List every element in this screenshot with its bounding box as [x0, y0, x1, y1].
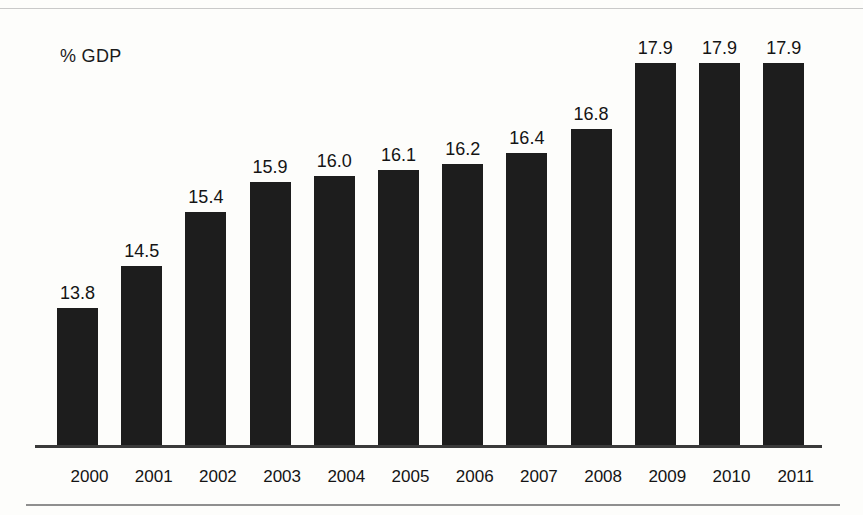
bar[interactable]	[571, 129, 612, 445]
bar-group: 17.9	[763, 0, 804, 445]
bar[interactable]	[442, 164, 483, 445]
bar[interactable]	[506, 153, 547, 445]
bar[interactable]	[699, 63, 740, 445]
x-axis-tick-label: 2010	[699, 467, 764, 487]
bottom-divider-rule	[26, 504, 840, 506]
bar-group: 16.1	[378, 0, 419, 445]
bar-value-label: 15.4	[173, 187, 238, 208]
bar[interactable]	[250, 182, 291, 445]
x-axis-tick-label: 2005	[378, 467, 443, 487]
bar-group: 15.9	[250, 0, 291, 445]
bar-value-label: 17.9	[687, 38, 752, 59]
bar-group: 16.0	[314, 0, 355, 445]
bar-group: 16.8	[571, 0, 612, 445]
x-axis-tick-label: 2008	[571, 467, 636, 487]
bar-group: 17.9	[635, 0, 676, 445]
x-axis-tick-label: 2000	[57, 467, 122, 487]
x-axis-tick-label: 2003	[250, 467, 315, 487]
bar[interactable]	[314, 176, 355, 445]
bar-value-label: 13.8	[45, 283, 110, 304]
x-axis-tick-label: 2004	[314, 467, 379, 487]
bar[interactable]	[121, 266, 162, 445]
x-axis-tick-label: 2009	[635, 467, 700, 487]
bar[interactable]	[185, 212, 226, 445]
bar-group: 16.4	[506, 0, 547, 445]
bar-group: 16.2	[442, 0, 483, 445]
x-axis-tick-label: 2001	[121, 467, 186, 487]
bar[interactable]	[378, 170, 419, 445]
bar-value-label: 16.0	[302, 151, 367, 172]
bar-value-label: 14.5	[109, 241, 174, 262]
bar[interactable]	[763, 63, 804, 445]
bar-group: 13.8	[57, 0, 98, 445]
bar-chart-plot-area: % GDP 13.814.515.415.916.016.116.216.416…	[0, 0, 863, 515]
x-axis-tick-label: 2007	[506, 467, 571, 487]
x-axis-tick-label: 2006	[442, 467, 507, 487]
x-axis-baseline	[35, 445, 822, 448]
bar-value-label: 16.2	[430, 139, 495, 160]
bar-value-label: 15.9	[238, 157, 303, 178]
bar-value-label: 17.9	[751, 38, 816, 59]
bar-value-label: 16.1	[366, 145, 431, 166]
bar[interactable]	[57, 308, 98, 445]
x-axis-tick-label: 2002	[185, 467, 250, 487]
bar-group: 14.5	[121, 0, 162, 445]
bar[interactable]	[635, 63, 676, 445]
chart-page: % GDP 13.814.515.415.916.016.116.216.416…	[0, 0, 863, 515]
bar-value-label: 16.8	[559, 104, 624, 125]
bar-value-label: 16.4	[494, 128, 559, 149]
bar-group: 15.4	[185, 0, 226, 445]
bar-group: 17.9	[699, 0, 740, 445]
x-axis-tick-label: 2011	[763, 467, 828, 487]
bar-value-label: 17.9	[623, 38, 688, 59]
